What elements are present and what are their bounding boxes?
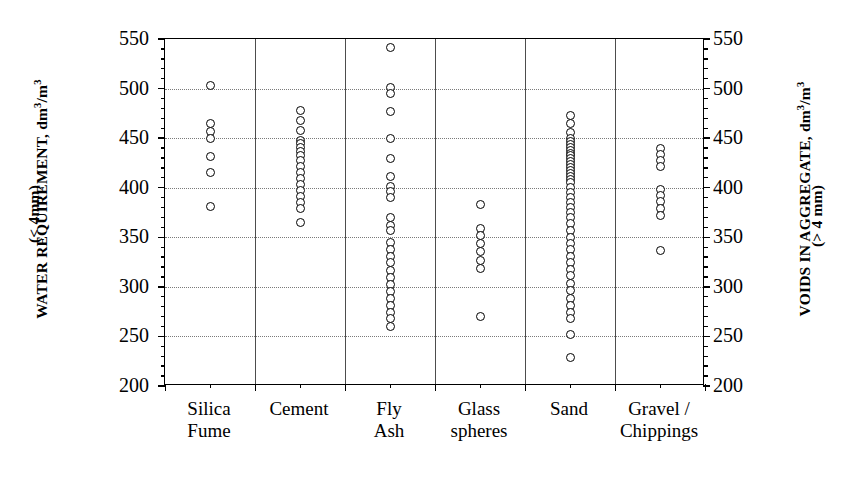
gridline: [165, 237, 703, 238]
data-point: [206, 202, 215, 211]
data-point: [386, 134, 395, 143]
left-y-tick-major: [158, 286, 165, 287]
left-y-tick-minor: [161, 365, 166, 366]
right-y-tick-minor: [703, 167, 708, 168]
right-y-tick-label: 550: [713, 28, 773, 48]
left-axis-subtitle-text: (< 4mm): [25, 185, 42, 243]
left-y-tick-major: [158, 38, 165, 39]
right-axis-subtitle-text: (> 4 mm): [808, 185, 825, 247]
data-point: [476, 247, 485, 256]
right-y-tick-minor: [703, 108, 708, 109]
plot-area: [164, 38, 704, 385]
data-point: [296, 218, 305, 227]
right-y-tick-minor: [703, 365, 708, 366]
left-y-tick-minor: [161, 256, 166, 257]
data-point: [296, 116, 305, 125]
data-point: [476, 200, 485, 209]
left-y-tick-label: 250: [89, 325, 149, 345]
left-y-tick-minor: [161, 197, 166, 198]
left-y-tick-minor: [161, 227, 166, 228]
right-y-tick-minor: [703, 118, 708, 119]
data-point: [206, 152, 215, 161]
left-y-tick-minor: [161, 266, 166, 267]
data-point: [656, 162, 665, 171]
right-y-tick-minor: [703, 207, 708, 208]
data-point: [386, 172, 395, 181]
x-tick-minor: [660, 384, 661, 388]
right-y-tick-minor: [703, 217, 708, 218]
left-y-tick-label: 500: [89, 78, 149, 98]
left-y-tick-label: 300: [89, 276, 149, 296]
data-point: [386, 193, 395, 202]
right-y-tick-major: [703, 286, 710, 287]
left-y-tick-minor: [161, 207, 166, 208]
right-y-tick-label: 300: [713, 276, 773, 296]
left-y-tick-minor: [161, 217, 166, 218]
data-point: [386, 322, 395, 331]
data-point: [476, 264, 485, 273]
left-y-tick-major: [158, 187, 165, 188]
left-y-tick-label: 550: [89, 28, 149, 48]
gridline: [165, 89, 703, 90]
left-y-tick-minor: [161, 177, 166, 178]
right-y-tick-minor: [703, 306, 708, 307]
category-label-5: Gravel / Chippings: [579, 398, 739, 443]
left-y-tick-major: [158, 336, 165, 337]
data-point: [386, 154, 395, 163]
data-point: [566, 314, 575, 323]
right-y-tick-major: [703, 38, 710, 39]
data-point: [476, 312, 485, 321]
right-y-tick-minor: [703, 177, 708, 178]
left-y-tick-label: 450: [89, 127, 149, 147]
x-tick-minor: [570, 384, 571, 388]
left-y-tick-minor: [161, 68, 166, 69]
data-point: [386, 89, 395, 98]
left-y-tick-minor: [161, 48, 166, 49]
data-point: [386, 226, 395, 235]
left-y-tick-minor: [161, 326, 166, 327]
gridline: [165, 188, 703, 189]
data-point: [206, 81, 215, 90]
right-y-tick-minor: [703, 128, 708, 129]
right-y-tick-minor: [703, 197, 708, 198]
right-axis-subtitle: (> 4 mm): [808, 136, 826, 296]
left-y-tick-minor: [161, 375, 166, 376]
right-y-tick-label: 200: [713, 375, 773, 395]
data-point: [566, 119, 575, 128]
right-y-tick-minor: [703, 247, 708, 248]
left-y-tick-label: 400: [89, 177, 149, 197]
category-separator: [615, 39, 616, 384]
right-y-tick-minor: [703, 68, 708, 69]
right-y-tick-minor: [703, 296, 708, 297]
data-point: [386, 107, 395, 116]
category-separator: [525, 39, 526, 384]
left-y-tick-major: [158, 88, 165, 89]
right-y-tick-minor: [703, 157, 708, 158]
right-y-tick-label: 500: [713, 78, 773, 98]
left-y-tick-label: 350: [89, 226, 149, 246]
right-y-tick-label: 250: [713, 325, 773, 345]
data-point: [296, 204, 305, 213]
left-y-tick-minor: [161, 98, 166, 99]
right-y-tick-minor: [703, 326, 708, 327]
data-point: [566, 330, 575, 339]
data-point: [206, 134, 215, 143]
left-y-tick-minor: [161, 128, 166, 129]
left-y-tick-major: [158, 137, 165, 138]
right-y-tick-major: [703, 336, 710, 337]
x-tick-minor: [300, 384, 301, 388]
data-point: [656, 246, 665, 255]
x-tick-major: [615, 384, 616, 391]
right-y-tick-minor: [703, 58, 708, 59]
data-point: [206, 168, 215, 177]
data-point: [386, 43, 395, 52]
right-y-tick-minor: [703, 316, 708, 317]
data-point: [656, 211, 665, 220]
x-tick-minor: [210, 384, 211, 388]
right-y-tick-major: [703, 237, 710, 238]
right-y-tick-label: 350: [713, 226, 773, 246]
gridline: [165, 336, 703, 337]
right-y-tick-minor: [703, 256, 708, 257]
left-y-tick-minor: [161, 276, 166, 277]
data-point: [566, 353, 575, 362]
